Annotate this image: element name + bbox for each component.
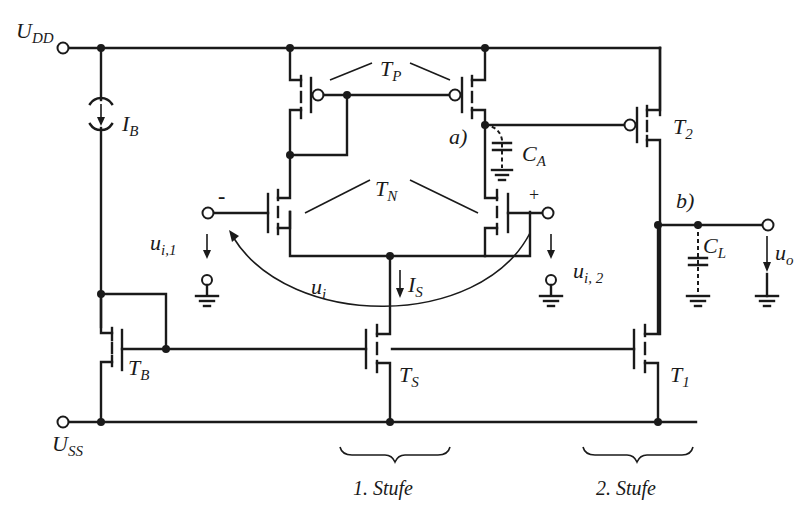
diff-pair-tail-wire [290,212,530,256]
tp-pointer-left [330,63,372,80]
node-a-label: a) [449,126,467,148]
uo-label: uo [775,242,794,268]
noninverting-input-terminal [543,208,554,219]
stage1-brace [340,447,450,462]
vss-terminal [58,417,69,428]
is-label: IS [408,274,423,300]
transistor-t1 [634,225,658,422]
tp-pointer-right [410,63,450,80]
capacitor-ca [485,125,512,180]
ts-label: TS [399,364,419,390]
ui-label: ui [311,276,326,302]
t1-label: T1 [670,364,690,390]
input1-ground [196,234,218,306]
inverting-input-terminal [203,208,214,219]
node-b-label: b) [676,190,694,212]
ui1-label: ui,1 [150,232,176,258]
stage2-brace [583,447,693,462]
transistor-t2 [625,48,661,334]
plus-sign: + [529,186,539,204]
cl-label: CL [703,235,726,261]
tn-label: TN [375,178,397,204]
ca-label: CA [522,143,546,169]
tn-pointer-right [410,180,478,213]
bias-current-source [90,48,112,327]
op-amp-schematic [0,0,811,517]
tail-current-arrow [396,270,404,298]
stage2-label: 2. Stufe [596,478,656,498]
output-terminal [763,220,774,231]
vdd-rail [69,48,660,115]
vss-label: USS [52,433,83,459]
stage1-label: 1. Stufe [353,478,413,498]
tp-label: TP [380,58,401,84]
input2-ground [540,234,562,306]
transistor-tp-left [290,48,347,155]
transistor-tp-right [450,48,486,125]
transistor-ts [366,256,390,422]
tn-pointer-left [305,180,370,213]
ib-label: IB [122,113,139,139]
t2-label: T2 [673,116,693,142]
ui2-label: ui, 2 [573,260,603,286]
vdd-label: UDD [16,20,54,46]
minus-sign: - [218,185,225,207]
tb-label: TB [128,357,149,383]
vdd-terminal [58,43,69,54]
